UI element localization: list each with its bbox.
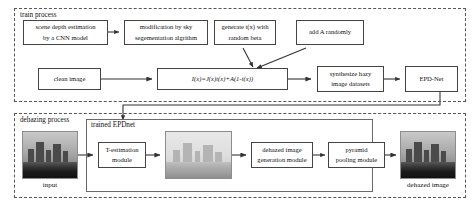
thumb-building <box>431 144 439 162</box>
thumb-ground <box>401 162 455 178</box>
thumb-building <box>406 149 412 163</box>
node-line-1: synthesize hazy <box>330 69 372 79</box>
thumbnail-input-hazy-image <box>22 131 78 179</box>
node-line-1: clean image <box>54 74 86 84</box>
node-scene-depth-estimation[interactable]: scene depth estimation by a CNN model <box>23 20 108 45</box>
node-line-1: pyramid <box>346 145 368 155</box>
node-line-2: module <box>112 155 132 165</box>
node-sky-segmentation[interactable]: modification by sky segementation algrit… <box>124 20 208 45</box>
thumb-building <box>53 144 61 162</box>
thumb-building <box>215 152 222 162</box>
node-line-1: dehazed image <box>262 145 301 155</box>
thumb-building <box>441 151 446 162</box>
node-clean-image[interactable]: clean image <box>38 68 101 90</box>
node-line-2: random beta <box>229 33 262 43</box>
node-scattering-model-formula[interactable]: I(x)=J(x)t(x)+A(1-t(x)) <box>157 68 288 90</box>
figure-canvas: train process scene depth estimation by … <box>0 0 474 206</box>
thumb-building <box>424 150 429 162</box>
node-line-2: by a CNN model <box>43 33 88 43</box>
node-line-2: generation module <box>257 155 306 165</box>
trained-epdnet-label: trained EPDnet <box>91 122 135 129</box>
thumb-building <box>28 149 34 163</box>
caption-dehazed-image: dehazed image <box>392 182 464 189</box>
node-line-2: image datasets <box>331 79 370 89</box>
node-line-1: add A randomly <box>309 27 351 37</box>
node-line-2: segementation algrithm <box>135 33 197 43</box>
node-line-1: generate t(x) with <box>222 22 269 32</box>
dehazing-process-label: dehazing process <box>20 117 69 124</box>
node-dehazed-image-generation-module[interactable]: dehazed image generation module <box>251 142 313 168</box>
node-line-1: EPD-Net <box>419 74 443 84</box>
thumb-building <box>183 143 192 162</box>
node-t-estimation-module[interactable]: T-estimation module <box>98 142 146 168</box>
thumb-building <box>414 142 422 162</box>
thumb-building <box>36 142 44 162</box>
thumb-building <box>46 150 51 162</box>
train-process-label: train process <box>20 12 57 19</box>
node-line-1: modification by sky <box>140 22 193 32</box>
node-epd-net[interactable]: EPD-Net <box>405 66 458 92</box>
thumb-ground <box>166 162 231 178</box>
node-line-2: pooling module <box>336 155 378 165</box>
thumb-building <box>173 150 180 162</box>
thumb-ground <box>23 162 77 178</box>
node-synthesize-hazy-datasets[interactable]: synthesize hazy image datasets <box>317 66 384 92</box>
thumbnail-intermediate-hazy-image <box>165 131 232 179</box>
thumb-building <box>195 151 201 162</box>
node-line-1: T-estimation <box>105 145 138 155</box>
thumbnail-dehazed-output-image <box>400 131 456 179</box>
node-line-1: scene depth estimation <box>35 22 95 32</box>
thumb-building <box>63 151 68 162</box>
formula-text: I(x)=J(x)t(x)+A(1-t(x)) <box>192 74 253 84</box>
node-add-a-randomly[interactable]: add A randomly <box>296 20 364 45</box>
node-pyramid-pooling-module[interactable]: pyramid pooling module <box>328 142 385 168</box>
caption-input: input <box>22 182 78 189</box>
node-generate-tx[interactable]: generate t(x) with random beta <box>214 20 276 45</box>
thumb-building <box>203 145 213 162</box>
